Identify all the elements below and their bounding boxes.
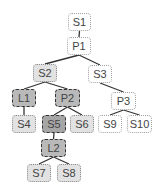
node-s7: S7 (27, 164, 51, 182)
node-s2: S2 (33, 64, 57, 82)
edge-p2-s5 (54, 107, 68, 115)
node-label: S4 (17, 119, 30, 130)
node-p2: P2 (55, 89, 80, 107)
node-label: S6 (75, 119, 88, 130)
edge-p1-s3 (79, 55, 100, 65)
node-p1: P1 (67, 37, 91, 55)
node-p3: P3 (111, 92, 136, 110)
edge-s3-p3 (100, 83, 124, 92)
node-s4: S4 (12, 115, 36, 133)
edge-s2-p2 (45, 82, 68, 89)
node-label: P3 (117, 96, 130, 107)
node-label: S3 (93, 69, 106, 80)
node-l2: L2 (41, 139, 66, 157)
edge-p2-s6 (68, 107, 83, 115)
edge-l2-s7 (39, 157, 54, 164)
node-label: L1 (18, 93, 30, 104)
node-s8: S8 (57, 164, 81, 182)
node-s6: S6 (70, 115, 94, 133)
edge-p1-s2 (45, 55, 79, 64)
node-s9: S9 (98, 115, 122, 133)
node-label: P1 (72, 41, 85, 52)
node-label: P2 (61, 93, 74, 104)
node-label: S9 (103, 119, 116, 130)
node-label: S8 (62, 168, 75, 179)
node-label: S10 (130, 119, 150, 130)
node-s3: S3 (88, 65, 112, 83)
tree-diagram: S1P1S2S3L1P2P3S4S5S6S9S10L2S7S8 (0, 0, 161, 189)
node-l1: L1 (12, 89, 36, 107)
node-label: S1 (73, 17, 86, 28)
node-label: L2 (47, 143, 59, 154)
node-label: S7 (32, 168, 45, 179)
node-s5: S5 (42, 115, 66, 133)
node-label: S2 (38, 68, 51, 79)
node-s10: S10 (127, 115, 152, 133)
edge-l2-s8 (54, 157, 70, 164)
node-s1: S1 (68, 13, 91, 31)
node-label: S5 (47, 119, 60, 130)
edge-s2-l1 (24, 82, 45, 89)
